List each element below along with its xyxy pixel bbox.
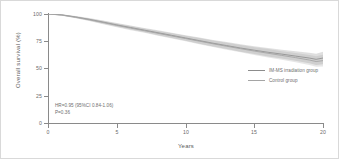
kaplan-meier-survival-figure: Overall survival (%) 100 75 50 25 0 0 5 … [0,0,339,159]
x-tick-label-15: 15 [239,130,269,135]
x-tick-10 [186,124,187,128]
legend-item-control: Control group [248,75,318,85]
legend: IM-MS irradiation group Control group [248,65,318,85]
x-tick-label-5: 5 [102,130,132,135]
confidence-band [48,14,323,67]
y-tick-label-0: 0 [2,121,42,126]
legend-label-irradiation: IM-MS irradiation group [269,68,318,73]
legend-label-control: Control group [269,78,297,83]
x-tick-5 [117,124,118,128]
y-tick-label-50: 50 [2,66,42,71]
x-tick-label-10: 10 [171,130,201,135]
statistics-annotation: HR=0.95 (95%CI 0.84-1.06) P=0.36 [55,102,113,116]
legend-swatch-icon [248,80,265,81]
x-tick-0 [48,124,49,128]
legend-item-irradiation: IM-MS irradiation group [248,65,318,75]
x-tick-15 [254,124,255,128]
y-tick-label-100: 100 [2,12,42,17]
legend-swatch-icon [248,70,265,71]
x-axis-title: Years [48,143,324,149]
x-tick-label-20: 20 [308,130,338,135]
hazard-ratio-text: HR=0.95 (95%CI 0.84-1.06) [55,102,113,109]
y-tick-label-25: 25 [2,94,42,99]
x-tick-label-0: 0 [33,130,63,135]
x-tick-20 [323,124,324,128]
p-value-text: P=0.36 [55,109,113,116]
y-tick-label-75: 75 [2,39,42,44]
